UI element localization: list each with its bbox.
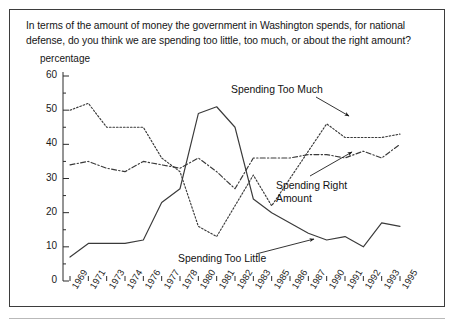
series-line-spending-too-much xyxy=(70,103,400,236)
y-axis-tick-label: 0 xyxy=(35,274,57,285)
y-axis-tick-label: 30 xyxy=(35,172,57,183)
y-axis-tick-label: 60 xyxy=(35,69,57,80)
y-axis-tick-label: 20 xyxy=(35,206,57,217)
arrow-right-amount xyxy=(310,152,352,176)
annotation-right-line1: Spending Right xyxy=(276,180,347,191)
y-axis-tick-label: 40 xyxy=(35,137,57,148)
footer-divider xyxy=(9,318,445,319)
annotation-spending-right-amount: Spending Right Amount xyxy=(276,179,347,205)
series-line-spending-right-amount xyxy=(70,144,400,188)
annotation-spending-too-much: Spending Too Much xyxy=(231,83,323,96)
annotation-right-line2: Amount xyxy=(276,193,312,204)
y-axis-tick-label: 50 xyxy=(35,103,57,114)
arrow-too-much xyxy=(316,97,349,116)
series-line-spending-too-little xyxy=(70,107,400,257)
annotation-spending-too-little: Spending Too Little xyxy=(178,252,266,265)
chart-figure: In terms of the amount of money the gove… xyxy=(0,0,454,325)
y-axis-tick-label: 10 xyxy=(35,240,57,251)
